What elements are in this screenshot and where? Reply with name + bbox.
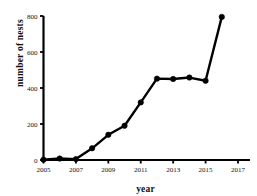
x-axis: 2005200720092011201320152017 <box>37 160 251 174</box>
x-tick-label-2013: 2013 <box>166 166 181 174</box>
line-chart-plot: 0200400600800 20052007200920112013201520… <box>0 0 257 196</box>
data-point-2011 <box>138 100 143 105</box>
data-point-2016 <box>219 14 224 19</box>
data-point-2008 <box>89 146 94 151</box>
y-axis-tick-labels: 0200400600800 <box>27 13 38 165</box>
data-point-2013 <box>170 76 175 81</box>
y-tick-label-400: 400 <box>27 85 38 93</box>
data-point-2010 <box>122 123 127 128</box>
x-tick-label-2007: 2007 <box>69 166 84 174</box>
data-point-2012 <box>154 76 159 81</box>
series-line-number-of-nests <box>44 17 222 160</box>
data-series-group <box>41 14 225 162</box>
x-tick-label-2009: 2009 <box>101 166 116 174</box>
data-point-2005 <box>41 157 46 162</box>
y-tick-label-800: 800 <box>27 13 38 21</box>
x-tick-label-2005: 2005 <box>37 166 52 174</box>
x-tick-label-2017: 2017 <box>231 166 246 174</box>
y-tick-label-0: 0 <box>34 157 38 165</box>
series-markers <box>41 14 225 162</box>
data-point-2014 <box>187 75 192 80</box>
x-axis-tick-labels: 2005200720092011201320152017 <box>37 166 246 174</box>
x-tick-label-2015: 2015 <box>199 166 214 174</box>
y-tick-label-200: 200 <box>27 121 38 129</box>
y-tick-label-600: 600 <box>27 49 38 57</box>
chart-container: 0200400600800 20052007200920112013201520… <box>0 0 257 196</box>
data-point-2015 <box>203 78 208 83</box>
data-point-2007 <box>73 156 78 161</box>
data-point-2006 <box>57 156 62 161</box>
data-point-2009 <box>106 132 111 137</box>
x-tick-label-2011: 2011 <box>134 166 148 174</box>
y-axis: 0200400600800 <box>27 13 44 165</box>
